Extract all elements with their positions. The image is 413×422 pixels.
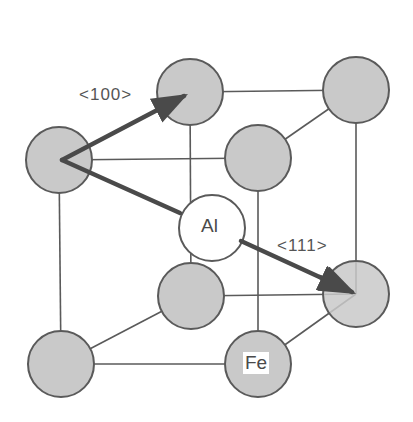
label-direction-100: <100> — [79, 85, 132, 105]
fe-atom-front-bottom-left — [28, 331, 94, 397]
label-direction-111: <111> — [277, 236, 328, 256]
label-atom-fe: Fe — [243, 352, 269, 374]
fe-atom-back-top-left — [157, 59, 223, 125]
vector-100-arrow — [62, 96, 184, 160]
crystal-diagram: <100> <111> Al Fe — [0, 0, 413, 422]
fe-atom-back-bottom-right — [323, 261, 389, 327]
label-atom-al: Al — [201, 215, 218, 237]
fe-atom-front-top-left — [26, 127, 92, 193]
fe-atom-back-bottom-left — [158, 263, 224, 329]
unit-cell-svg — [0, 0, 413, 422]
fe-atom-front-top-right — [225, 125, 291, 191]
fe-atom-back-top-right — [323, 57, 389, 123]
